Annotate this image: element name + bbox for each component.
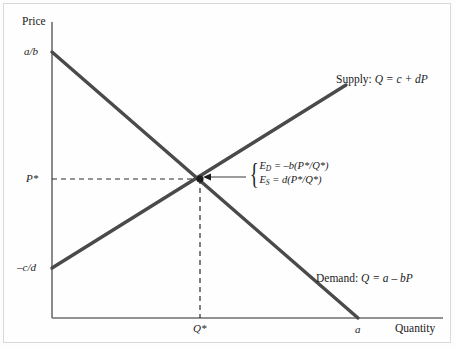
- equilibrium-point: [196, 175, 203, 182]
- x-tick-equilibrium-quantity: Q*: [193, 322, 206, 335]
- y-tick-supply-intercept: –c/d: [17, 261, 36, 274]
- supply-curve-label-text: Supply:: [336, 73, 372, 85]
- elasticity-supply-expression: = d(P*/Q*): [270, 174, 322, 185]
- annotation-brace: {: [250, 158, 259, 188]
- elasticity-annotation: { ED = –b(P*/Q*) ES = d(P*/Q*): [247, 158, 329, 188]
- demand-curve-equation: Q = a – bP: [361, 272, 413, 284]
- supply-curve-label: Supply: Q = c + dP: [336, 73, 428, 86]
- x-axis-label: Quantity: [395, 322, 435, 335]
- supply-curve-equation: Q = c + dP: [375, 73, 428, 85]
- elasticity-supply-equation: ES = d(P*/Q*): [259, 174, 328, 187]
- y-axis-label: Price: [22, 15, 46, 28]
- demand-curve-label: Demand: Q = a – bP: [316, 272, 413, 285]
- y-tick-demand-intercept: a/b: [24, 45, 38, 58]
- x-tick-demand-intercept: a: [355, 323, 361, 336]
- elasticity-demand-equation: ED = –b(P*/Q*): [259, 160, 328, 173]
- annotation-equations: ED = –b(P*/Q*) ES = d(P*/Q*): [259, 160, 328, 186]
- supply-demand-figure: Price Quantity a/b P* –c/d Q* a Supply: …: [0, 0, 455, 347]
- y-tick-equilibrium-price: P*: [26, 172, 38, 185]
- demand-curve-label-text: Demand:: [316, 272, 358, 284]
- plot-canvas: [0, 0, 455, 347]
- elasticity-demand-expression: = –b(P*/Q*): [271, 160, 328, 171]
